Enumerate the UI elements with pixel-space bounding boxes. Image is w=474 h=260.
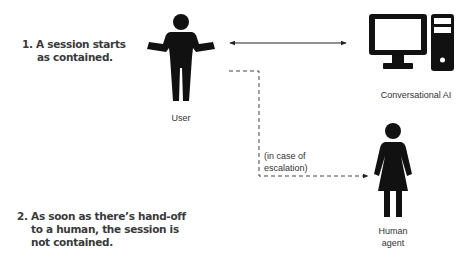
computer-icon [369, 14, 454, 71]
human-agent-label: Human agent [373, 225, 413, 249]
user-label: User [161, 112, 201, 124]
person-icon [147, 14, 215, 101]
note-contained: 1. A session starts as contained. [22, 38, 126, 64]
conversational-ai-label: Conversational AI [366, 89, 466, 101]
note-not-contained: 2. As soon as there’s hand-off to a huma… [17, 210, 186, 249]
escalation-label: (in case of escalation) [264, 150, 308, 174]
woman-icon [374, 123, 412, 217]
